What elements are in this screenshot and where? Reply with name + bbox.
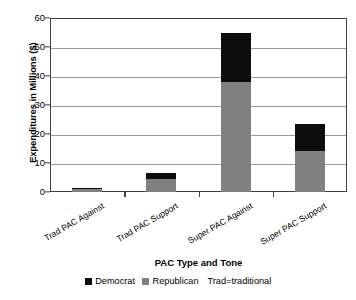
y-tick-label: 50 xyxy=(11,42,45,52)
bar-super-pac-support xyxy=(295,124,325,192)
x-tick-mark xyxy=(273,192,274,197)
bar-segment-democrat xyxy=(72,188,102,189)
bar-segment-democrat xyxy=(146,173,176,179)
bar-segment-republican xyxy=(295,151,325,192)
y-tick-label: 10 xyxy=(11,158,45,168)
legend-label-republican: Republican xyxy=(153,277,199,286)
legend-swatch-democrat-icon xyxy=(85,278,92,285)
y-tick-label: 40 xyxy=(11,71,45,81)
x-tick-mark xyxy=(124,192,125,197)
x-category-label: Super PAC Against xyxy=(186,202,253,246)
y-tick-label: 60 xyxy=(11,13,45,23)
legend-note: Trad=traditional xyxy=(208,277,272,286)
x-category-label: Super PAC Support xyxy=(259,202,328,247)
x-axis-title: PAC Type and Tone xyxy=(50,258,347,268)
bar-segment-republican xyxy=(146,179,176,192)
bar-super-pac-against xyxy=(221,33,251,193)
legend-label-democrat: Democrat xyxy=(95,277,135,286)
bars-layer xyxy=(50,18,347,192)
x-category-label: Trad PAC Support xyxy=(115,202,179,244)
stacked-bar-chart: Expenditures in Millions ($) 01020304050… xyxy=(0,0,356,300)
x-tick-mark xyxy=(199,192,200,197)
bar-trad-pac-support xyxy=(146,173,176,192)
x-category-label: Trad PAC Against xyxy=(43,202,106,243)
legend-item-democrat: Democrat xyxy=(85,277,135,286)
legend-item-republican: Republican xyxy=(142,277,198,286)
bar-segment-democrat xyxy=(295,124,325,152)
bar-segment-democrat xyxy=(221,33,251,82)
bar-trad-pac-against xyxy=(72,188,102,192)
y-tick-label: 30 xyxy=(11,100,45,110)
bar-segment-republican xyxy=(221,82,251,192)
bar-segment-republican xyxy=(72,189,102,192)
y-tick-label: 0 xyxy=(11,187,45,197)
legend-swatch-republican-icon xyxy=(142,278,149,285)
y-tick-label: 20 xyxy=(11,129,45,139)
chart-legend: Democrat Republican Trad=traditional xyxy=(0,277,356,286)
